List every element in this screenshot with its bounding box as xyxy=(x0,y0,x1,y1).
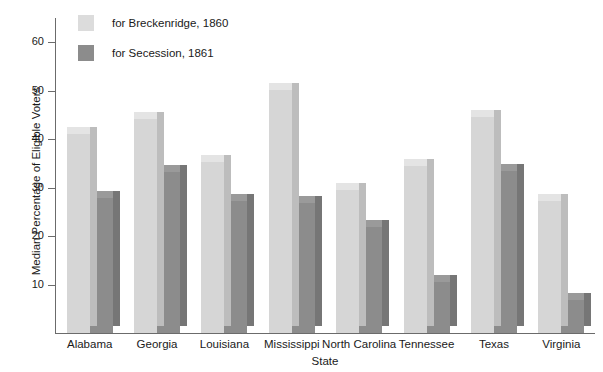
bar-face xyxy=(471,117,494,333)
legend-label-secession: for Secession, 1861 xyxy=(112,47,214,59)
bar-side xyxy=(157,112,164,326)
y-tick-40 xyxy=(48,139,56,140)
bar-top xyxy=(201,155,224,162)
y-tick-label-60: 60 xyxy=(4,36,44,47)
bar-side xyxy=(427,159,434,326)
bar-alabama-series-1 xyxy=(67,134,90,333)
bar-mississippi-series-1 xyxy=(269,90,292,333)
bar-face xyxy=(404,166,427,333)
bar-group xyxy=(538,18,584,333)
bar-chart: 102030405060 Median Percentage of Eligib… xyxy=(0,0,603,372)
bar-face xyxy=(538,201,561,333)
x-axis-line xyxy=(55,333,595,334)
bar-side xyxy=(224,155,231,326)
bar-virginia-series-1 xyxy=(538,201,561,333)
legend: for Breckenridge, 1860 for Secession, 18… xyxy=(78,12,228,72)
bar-north-carolina-series-1 xyxy=(336,190,359,333)
bar-group xyxy=(404,18,450,333)
bar-tennessee-series-1 xyxy=(404,166,427,333)
bar-side xyxy=(584,293,591,326)
y-tick-60 xyxy=(48,42,56,43)
bar-side xyxy=(494,110,501,326)
bar-top xyxy=(471,110,494,117)
bar-side xyxy=(359,183,366,326)
bar-georgia-series-1 xyxy=(134,119,157,333)
y-axis-title: Median Percentage of Eligible Voters xyxy=(30,61,42,301)
bar-top xyxy=(336,183,359,190)
legend-label-breckenridge: for Breckenridge, 1860 xyxy=(112,17,228,29)
bar-side xyxy=(382,220,389,326)
y-tick-30 xyxy=(48,188,56,189)
bar-group xyxy=(336,18,382,333)
bar-side xyxy=(113,191,120,326)
bar-top xyxy=(134,112,157,119)
x-axis-title: State xyxy=(55,355,595,367)
legend-item-breckenridge: for Breckenridge, 1860 xyxy=(78,12,228,34)
y-tick-20 xyxy=(48,236,56,237)
bar-louisiana-series-1 xyxy=(201,162,224,333)
y-tick-50 xyxy=(48,91,56,92)
bar-face xyxy=(134,119,157,333)
x-tick-label-virginia: Virginia xyxy=(518,338,603,351)
bar-side xyxy=(450,275,457,326)
bar-face xyxy=(336,190,359,333)
bar-top xyxy=(404,159,427,166)
bar-top xyxy=(538,194,561,201)
bar-side xyxy=(90,127,97,326)
bar-face xyxy=(67,134,90,333)
bar-face xyxy=(269,90,292,333)
bar-face xyxy=(201,162,224,333)
bar-group xyxy=(471,18,517,333)
bar-side xyxy=(315,196,322,326)
bar-side xyxy=(247,194,254,326)
bar-top xyxy=(269,83,292,90)
bar-side xyxy=(180,165,187,326)
bar-group xyxy=(269,18,315,333)
y-tick-10 xyxy=(48,285,56,286)
bar-top xyxy=(67,127,90,134)
bar-side xyxy=(292,83,299,326)
legend-item-secession: for Secession, 1861 xyxy=(78,42,228,64)
bar-side xyxy=(517,164,524,326)
legend-swatch-icon-breckenridge xyxy=(78,15,94,31)
legend-swatch-icon-secession xyxy=(78,45,94,61)
bar-texas-series-1 xyxy=(471,117,494,333)
bar-side xyxy=(561,194,568,326)
